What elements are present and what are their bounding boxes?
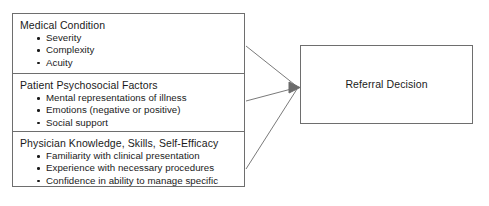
outcome-label: Referral Decision (345, 78, 427, 91)
list-item: Acuity (20, 57, 238, 69)
arrowhead-icon (289, 82, 300, 93)
list-item-label: Confidence in ability to manage specific (46, 175, 218, 186)
list-item-label: Complexity (46, 44, 94, 55)
list-item: Social support (20, 117, 238, 129)
list-item-label: Acuity (46, 57, 73, 68)
bullet-dot-icon (37, 97, 40, 100)
factor-heading: Physician Knowledge, Skills, Self-Effica… (20, 137, 238, 150)
list-item: Complexity (20, 44, 238, 56)
factor-bullet-list: Severity Complexity Acuity (20, 32, 238, 69)
list-item: Emotions (negative or positive) (20, 104, 238, 116)
bullet-dot-icon (37, 109, 40, 112)
bullet-dot-icon (37, 155, 40, 158)
outcome-box-referral-decision: Referral Decision (300, 45, 473, 124)
list-item-label: Emotions (negative or positive) (46, 104, 181, 115)
list-item-label: Social support (46, 117, 108, 128)
list-item: Mental representations of illness (20, 92, 238, 104)
bullet-dot-icon (37, 180, 40, 183)
factor-bullet-list: Familiarity with clinical presentation E… (20, 150, 238, 187)
factor-heading: Medical Condition (20, 19, 238, 32)
list-item: Severity (20, 32, 238, 44)
connector-physician-to-referral (246, 89, 297, 169)
factor-heading: Patient Psychosocial Factors (20, 79, 238, 92)
list-item-label: Experience with necessary procedures (46, 162, 214, 173)
connector-medical-to-referral (246, 46, 297, 87)
bullet-dot-icon (37, 49, 40, 52)
factor-box-physician-knowledge: Physician Knowledge, Skills, Self-Effica… (13, 131, 244, 186)
bullet-dot-icon (37, 62, 40, 65)
list-item: Familiarity with clinical presentation (20, 150, 238, 162)
list-item: Experience with necessary procedures (20, 162, 238, 174)
factor-bullet-list: Mental representations of illness Emotio… (20, 92, 238, 129)
diagram-canvas: Medical Condition Severity Complexity Ac… (0, 0, 489, 206)
bullet-dot-icon (37, 167, 40, 170)
factor-box-medical-condition: Medical Condition Severity Complexity Ac… (13, 14, 244, 73)
list-item-label: Familiarity with clinical presentation (46, 150, 200, 161)
list-item-label: Mental representations of illness (46, 92, 187, 103)
list-item-label: Severity (46, 32, 81, 43)
bullet-dot-icon (37, 37, 40, 40)
influencing-factors-group: Medical Condition Severity Complexity Ac… (12, 13, 245, 187)
factor-box-patient-psychosocial-factors: Patient Psychosocial Factors Mental repr… (13, 73, 244, 131)
list-item: Confidence in ability to manage specific (20, 175, 238, 187)
bullet-dot-icon (37, 122, 40, 125)
